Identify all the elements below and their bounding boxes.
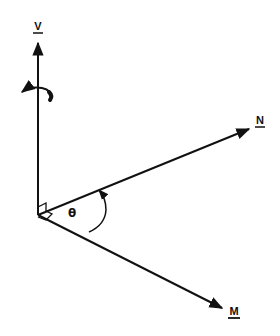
coordinate-diagram: V N M θ: [0, 0, 280, 336]
m-axis: M: [38, 215, 240, 318]
n-axis: N: [38, 114, 265, 215]
v-axis: V: [33, 20, 43, 215]
rotation-arrow-icon: [22, 88, 51, 101]
theta-angle-arc: θ: [68, 190, 106, 232]
v-axis-label: V: [34, 20, 42, 32]
m-axis-label: M: [229, 305, 238, 317]
theta-symbol: θ: [68, 206, 76, 220]
n-axis-label: N: [256, 114, 264, 126]
